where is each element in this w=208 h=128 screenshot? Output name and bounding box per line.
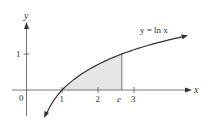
y-axis-arrow-icon [24,22,29,29]
ln-graph-figure: y x 0 1 1 2 e 3 y = ln x [0,0,208,128]
function-label: y = ln x [140,25,168,35]
shaded-area-accurate [62,54,122,90]
origin-label: 0 [19,93,24,103]
y-tick-label-1: 1 [16,49,21,59]
x-tick-label-1: 1 [60,94,65,104]
x-axis-label: x [193,84,199,95]
curve-upper-arrow-icon [181,34,188,39]
y-axis-label: y [23,10,29,21]
x-tick-label-2: 2 [96,94,101,104]
x-tick-label-3: 3 [131,94,136,104]
curve-lower-arrow-icon [44,111,49,118]
x-tick-label-e: e [117,94,121,104]
x-axis-arrow-icon [185,88,192,93]
